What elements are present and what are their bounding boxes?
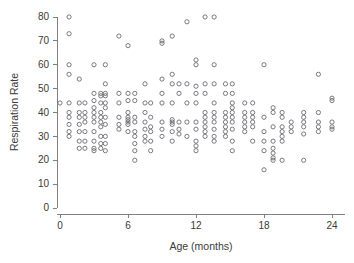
data-point	[177, 127, 181, 131]
data-point	[316, 120, 320, 124]
data-point	[58, 101, 62, 105]
y-tick-label: 0	[43, 202, 49, 213]
y-tick-group: 01020304050607080	[38, 11, 57, 213]
data-point	[194, 63, 198, 67]
data-point	[203, 115, 207, 119]
data-point	[117, 122, 121, 126]
data-point	[160, 134, 164, 138]
data-point	[83, 130, 87, 134]
data-point	[103, 149, 107, 153]
data-point	[170, 139, 174, 143]
data-point	[67, 110, 71, 114]
data-point	[203, 134, 207, 138]
data-point	[330, 120, 334, 124]
data-point	[143, 139, 147, 143]
data-point	[99, 146, 103, 150]
data-point	[170, 34, 174, 38]
data-point	[99, 134, 103, 138]
data-point	[251, 110, 255, 114]
data-point	[99, 115, 103, 119]
data-point	[203, 130, 207, 134]
data-point	[223, 120, 227, 124]
data-point	[133, 91, 137, 95]
x-tick-label: 6	[125, 220, 131, 231]
data-point	[170, 72, 174, 76]
data-point	[99, 101, 103, 105]
data-point	[185, 134, 189, 138]
data-point	[117, 91, 121, 95]
y-tick-label: 80	[38, 11, 50, 22]
data-point	[316, 110, 320, 114]
data-point	[271, 139, 275, 143]
data-point	[103, 82, 107, 86]
data-point	[271, 110, 275, 114]
data-point	[185, 82, 189, 86]
data-point	[230, 101, 234, 105]
y-tick-label: 70	[38, 35, 50, 46]
data-point	[77, 130, 81, 134]
data-point	[251, 139, 255, 143]
data-point	[99, 120, 103, 124]
data-point	[77, 77, 81, 81]
data-point	[280, 125, 284, 129]
data-point	[177, 120, 181, 124]
data-point	[67, 72, 71, 76]
data-point	[99, 110, 103, 114]
data-point	[243, 120, 247, 124]
data-point	[103, 134, 107, 138]
data-point	[92, 130, 96, 134]
data-point	[194, 101, 198, 105]
data-point	[67, 134, 71, 138]
data-point	[133, 158, 137, 162]
data-point	[67, 130, 71, 134]
data-point	[271, 125, 275, 129]
data-point	[243, 130, 247, 134]
data-point	[77, 115, 81, 119]
data-point	[271, 106, 275, 110]
x-tick-group: 06121824	[57, 214, 338, 231]
data-point	[194, 149, 198, 153]
data-point	[212, 115, 216, 119]
x-tick-label: 12	[190, 220, 202, 231]
data-point	[92, 63, 96, 67]
data-point	[243, 110, 247, 114]
data-point	[133, 141, 137, 145]
data-point	[289, 130, 293, 134]
data-point	[223, 130, 227, 134]
data-point	[92, 139, 96, 143]
data-point	[185, 20, 189, 24]
data-point	[289, 120, 293, 124]
data-point	[280, 134, 284, 138]
data-point	[203, 120, 207, 124]
data-point	[262, 139, 266, 143]
data-point	[203, 110, 207, 114]
data-point	[99, 141, 103, 145]
y-tick-label: 30	[38, 131, 50, 142]
data-point	[212, 139, 216, 143]
data-point	[160, 77, 164, 81]
data-point	[133, 115, 137, 119]
data-points-layer	[58, 15, 334, 172]
data-point	[194, 144, 198, 148]
data-point	[83, 101, 87, 105]
data-point	[212, 101, 216, 105]
data-point	[194, 58, 198, 62]
data-point	[251, 120, 255, 124]
data-point	[160, 101, 164, 105]
data-point	[212, 127, 216, 131]
data-point	[194, 91, 198, 95]
data-point	[67, 15, 71, 19]
data-point	[83, 146, 87, 150]
data-point	[92, 120, 96, 124]
data-point	[143, 110, 147, 114]
data-point	[223, 125, 227, 129]
data-point	[149, 130, 153, 134]
data-point	[143, 127, 147, 131]
data-point	[133, 130, 137, 134]
data-point	[143, 82, 147, 86]
data-point	[103, 63, 107, 67]
data-point	[243, 125, 247, 129]
data-point	[302, 115, 306, 119]
data-point	[143, 134, 147, 138]
data-point	[203, 91, 207, 95]
